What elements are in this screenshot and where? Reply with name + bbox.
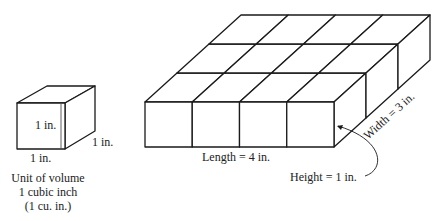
- unit-cube-front-label: 1 in.: [35, 118, 56, 132]
- cube-front-face: [240, 102, 287, 147]
- unit-cube-depth-label: 1 in.: [92, 135, 113, 149]
- cube-front-face: [145, 102, 192, 147]
- height-label: Height = 1 in.: [290, 170, 357, 184]
- unit-cube-caption-line-1: Unit of volume: [11, 171, 84, 185]
- unit-cube-caption-line-2: 1 cubic inch: [19, 185, 78, 199]
- volume-diagram: 1 in. 1 in. 1 in. Unit of volume 1 cubic…: [0, 0, 443, 221]
- cube-front-face: [287, 102, 334, 147]
- unit-cube-bottom-label: 1 in.: [30, 151, 51, 165]
- length-label: Length = 4 in.: [202, 150, 270, 164]
- unit-cube: 1 in. 1 in. 1 in. Unit of volume 1 cubic…: [11, 86, 113, 213]
- cube-front-face: [192, 102, 239, 147]
- rectangular-box: [145, 15, 430, 147]
- unit-cube-caption-line-3: (1 cu. in.): [25, 199, 72, 213]
